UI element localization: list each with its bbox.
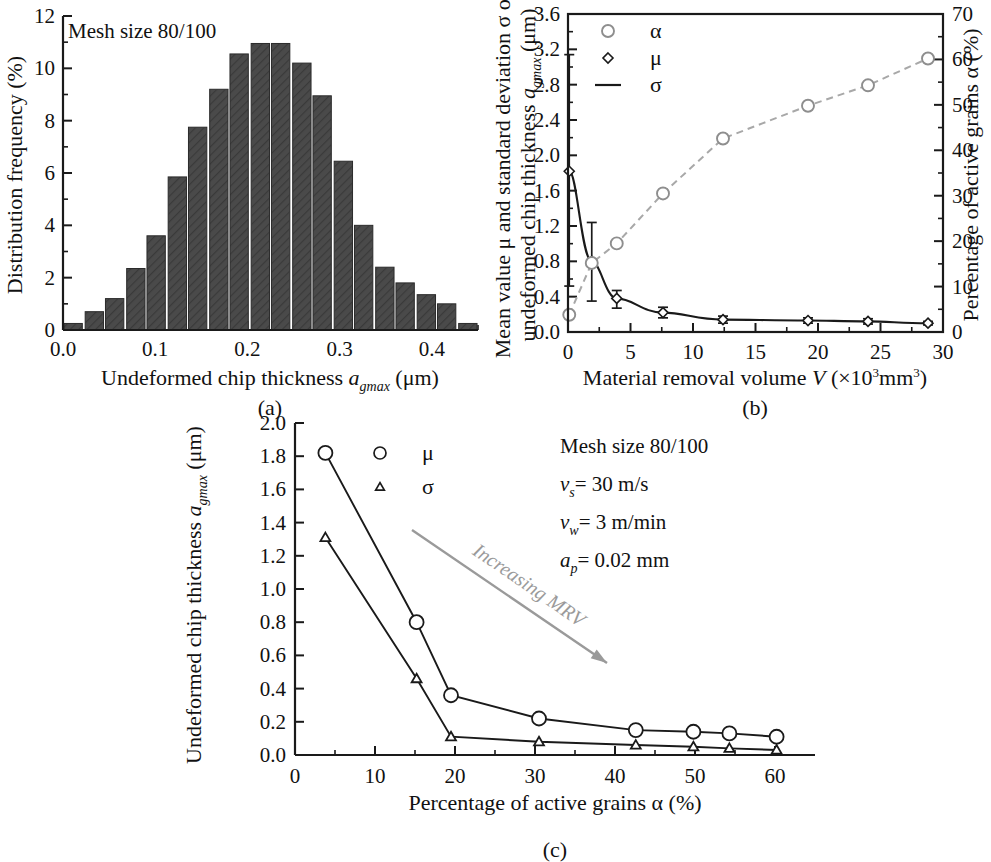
panel-c-xtick: 60	[765, 764, 786, 788]
panel-c-ytick: 0.4	[260, 677, 287, 701]
panel-c-ytick: 1.0	[260, 577, 286, 601]
panel-b-alpha-marker	[862, 79, 874, 91]
panel-c-legend-triangle-icon	[376, 483, 385, 490]
panel-a-ytick: 6	[45, 161, 56, 185]
panel-b-x-ticks: 051015202530	[563, 323, 954, 364]
panel-b-alpha-marker	[563, 309, 575, 321]
panel-c-sigma-marker	[631, 740, 641, 749]
panel-a-bar	[147, 236, 165, 330]
panel-b-xtick: 5	[625, 340, 636, 364]
panel-a-xlabel: Undeformed chip thickness agmax (μm)	[101, 365, 439, 394]
panel-a-ytick: 12	[34, 4, 55, 28]
panel-b-legend-label: α	[650, 18, 662, 43]
panel-b-left-ytick: 0.4	[534, 285, 561, 309]
panel-a-bar	[210, 89, 228, 330]
panel-a-bar	[271, 43, 289, 330]
panel-c-arrow-label: Increasing MRV	[468, 538, 592, 633]
panel-a-bar	[334, 161, 352, 330]
panel-c-ytick: 1.4	[260, 511, 287, 535]
panel-c-arrow-head	[591, 650, 607, 664]
panel-c-ytick: 2.0	[260, 411, 286, 435]
panel-a-bar	[376, 267, 394, 330]
panel-b-left-ytick: 2.0	[534, 143, 560, 167]
panel-c-legend-label: σ	[422, 474, 434, 499]
panel-a-annotation: Mesh size 80/100	[68, 19, 216, 43]
panel-a-xtick: 0.3	[327, 337, 353, 361]
panel-b-xtick: 20	[808, 340, 829, 364]
panel-a-bar	[188, 127, 206, 330]
panel-b-right-ytick: 30	[952, 184, 973, 208]
panel-c-sigma-marker	[534, 737, 544, 746]
panel-a-bar	[85, 312, 103, 330]
panel-b-xtick: 15	[745, 340, 766, 364]
panel-b-alpha-marker	[586, 257, 598, 269]
panel-c-ytick: 1.6	[260, 477, 286, 501]
panel-b-left-ytick: 0.8	[534, 249, 560, 273]
panel-b-legend-label: σ	[650, 72, 662, 97]
panel-c-mu-marker	[770, 730, 784, 744]
panel-a-xtick: 0.4	[419, 337, 446, 361]
panel-b-sigma-solid-line	[569, 171, 928, 323]
panel-b-right-ytick: 70	[952, 2, 973, 26]
panel-b-legend: αμσ	[595, 18, 662, 97]
panel-c-ytick: 0.8	[260, 610, 286, 634]
panel-c-mu-marker	[318, 446, 332, 460]
panel-b-frame	[568, 14, 943, 332]
panel-b-xtick: 0	[563, 340, 574, 364]
panel-b-mu-marker	[658, 308, 668, 318]
panel-b-xlabel: Material removal volume V (×103mm3)	[583, 365, 927, 390]
panel-b-left-ytick: 1.2	[534, 214, 560, 238]
panel-c-mu-marker	[444, 688, 458, 702]
panel-b-left-ytick: 0.0	[534, 320, 560, 344]
panel-c-parameter: vs= 30 m/s	[560, 472, 648, 500]
panel-a-ylabel: Distribution frequency (%)	[2, 56, 27, 294]
panel-b-right-ytick: 60	[952, 47, 973, 71]
panel-b-xtick: 30	[933, 340, 954, 364]
panel-a-xtick: 0.0	[50, 337, 76, 361]
panel-c-legend-circle-icon	[374, 447, 386, 459]
panel-b-line-chart: Mean value μ and standard deviation σ of…	[490, 0, 991, 420]
panel-c-mu-marker	[410, 615, 424, 629]
panel-b-legend-label: μ	[650, 45, 662, 70]
panel-c-xtick: 10	[365, 764, 386, 788]
panel-c-parameter: Mesh size 80/100	[560, 434, 708, 458]
panel-c-parameter: vw= 3 m/min	[560, 510, 667, 538]
panel-b-right-ytick: 10	[952, 275, 973, 299]
panel-c-xtick: 40	[605, 764, 626, 788]
panel-a-bar	[437, 304, 455, 330]
panel-a-bar	[396, 283, 414, 330]
panel-b-plot-area	[563, 53, 934, 329]
panel-c-ylabel: Undeformed chip thickness agmax (μm)	[181, 426, 210, 764]
panel-c-xtick: 20	[445, 764, 466, 788]
panel-c-legend: μσ	[374, 440, 434, 499]
panel-a-y-ticks: 024681012	[34, 4, 72, 342]
panel-b-right-ytick: 20	[952, 229, 973, 253]
panel-c-sigma-marker	[772, 745, 782, 754]
panel-b-left-ytick: 2.8	[534, 73, 560, 97]
panel-b-svg: Mean value μ and standard deviation σ of…	[490, 0, 991, 420]
panel-b-mu-marker	[612, 293, 622, 303]
panel-a-bar	[168, 177, 186, 330]
panel-c-sigma-marker	[724, 743, 734, 752]
panel-b-right-ytick: 50	[952, 93, 973, 117]
panel-c-xtick: 30	[525, 764, 546, 788]
panel-b-alpha-marker	[922, 53, 934, 65]
panel-c-legend-label: μ	[422, 440, 434, 465]
panel-a-ytick: 10	[34, 56, 55, 80]
panel-b-legend-diamond-icon	[603, 53, 613, 63]
panel-c-sigma-marker	[320, 533, 330, 542]
panel-c-sigma-marker	[688, 742, 698, 751]
panel-b-alpha-dashed-line	[569, 59, 928, 315]
panel-c-mu-marker	[629, 723, 643, 737]
panel-c-mu-marker	[686, 725, 700, 739]
panel-a-histogram: Distribution frequency (%) Mesh size 80/…	[0, 0, 490, 420]
panel-b-alpha-marker	[717, 132, 729, 144]
panel-c-xtick: 50	[685, 764, 706, 788]
panel-a-xtick: 0.2	[234, 337, 260, 361]
panel-a-ytick: 4	[45, 213, 56, 237]
panel-c-series-line-sigma	[325, 538, 776, 751]
panel-c-parameter-list: Mesh size 80/100vs= 30 m/svw= 3 m/minap=…	[560, 434, 708, 576]
panel-b-right-ytick: 0	[952, 320, 963, 344]
panel-c-sigma-marker	[446, 732, 456, 741]
panel-b-left-ytick: 2.4	[534, 108, 561, 132]
